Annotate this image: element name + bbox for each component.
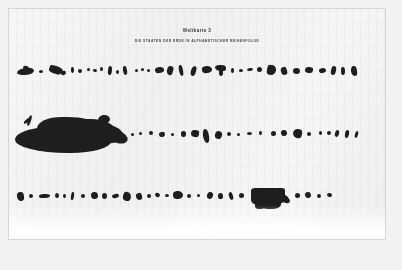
country-shape bbox=[197, 194, 200, 197]
country-shape bbox=[16, 192, 24, 202]
country-shape bbox=[78, 69, 82, 73]
country-shape bbox=[334, 130, 340, 138]
country-shape bbox=[112, 193, 120, 198]
country-shape bbox=[317, 194, 321, 198]
country-shape bbox=[295, 193, 300, 198]
country-shape bbox=[135, 192, 143, 200]
country-shape bbox=[93, 69, 98, 73]
country-shape bbox=[155, 192, 161, 197]
country-shape bbox=[214, 130, 223, 140]
scanned-page-viewport: Weltkarte 3 DIE STAATEN DER ERDE IN ALPH… bbox=[0, 0, 402, 270]
country-shape bbox=[100, 67, 103, 71]
country-shape bbox=[202, 65, 213, 73]
country-shape bbox=[131, 133, 134, 136]
country-shape bbox=[239, 193, 244, 198]
country-shape bbox=[154, 66, 164, 74]
country-shape bbox=[116, 70, 119, 74]
country-shape bbox=[271, 131, 276, 136]
country-shape bbox=[81, 194, 85, 198]
country-shape bbox=[122, 191, 132, 201]
country-shape bbox=[293, 68, 300, 74]
country-silhouette-row-3 bbox=[9, 177, 385, 225]
country-shape bbox=[218, 193, 223, 199]
country-shape bbox=[87, 68, 90, 71]
country-shape bbox=[70, 192, 74, 200]
country-shape bbox=[29, 194, 33, 198]
country-shape bbox=[318, 67, 326, 74]
country-shape bbox=[135, 69, 138, 72]
country-shape bbox=[350, 66, 357, 77]
country-shape bbox=[102, 193, 107, 199]
country-shape bbox=[247, 68, 253, 72]
country-shape bbox=[327, 193, 333, 198]
country-shape bbox=[228, 192, 234, 201]
page-title: Weltkarte 3 bbox=[9, 28, 385, 34]
country-shape bbox=[292, 128, 303, 139]
country-shape bbox=[266, 64, 277, 75]
country-shape bbox=[239, 69, 243, 72]
country-shape bbox=[39, 194, 50, 199]
country-shape bbox=[330, 66, 337, 76]
country-shape bbox=[190, 129, 199, 137]
country-shape bbox=[166, 65, 174, 75]
country-shape bbox=[341, 67, 345, 75]
country-shape bbox=[319, 131, 322, 135]
country-shape bbox=[178, 65, 184, 77]
country-shape bbox=[159, 131, 166, 137]
poster-paper-sheet: Weltkarte 3 DIE STAATEN DER ERDE IN ALPH… bbox=[9, 9, 385, 239]
country-shape bbox=[107, 66, 112, 75]
country-shape bbox=[149, 131, 153, 135]
country-shape bbox=[147, 194, 151, 198]
country-shape bbox=[187, 194, 191, 198]
country-shape bbox=[71, 67, 74, 73]
country-shape bbox=[219, 69, 223, 76]
country-shape bbox=[55, 193, 59, 198]
country-silhouette-row-2 bbox=[9, 105, 385, 171]
country-shape bbox=[344, 130, 349, 139]
country-shape bbox=[257, 67, 262, 72]
country-shape bbox=[280, 66, 288, 75]
country-shape bbox=[237, 133, 240, 136]
country-shape bbox=[259, 131, 262, 135]
country-shape bbox=[190, 66, 197, 77]
country-shape-russia bbox=[26, 115, 32, 126]
country-shape bbox=[173, 190, 184, 199]
country-silhouette-row-1 bbox=[9, 57, 385, 95]
country-shape bbox=[227, 132, 231, 136]
country-shape bbox=[39, 70, 43, 73]
country-shape bbox=[90, 191, 98, 199]
country-shape bbox=[139, 132, 142, 135]
country-shape bbox=[354, 131, 359, 139]
page-subtitle: DIE STAATEN DER ERDE IN ALPHABETISCHER R… bbox=[9, 39, 385, 44]
country-shape bbox=[280, 129, 287, 136]
country-shape bbox=[147, 69, 150, 72]
country-shape bbox=[206, 191, 214, 199]
country-shape bbox=[231, 68, 234, 73]
country-shape-usa bbox=[282, 197, 290, 204]
country-shape bbox=[63, 194, 66, 198]
country-shape bbox=[305, 66, 314, 73]
country-shape bbox=[141, 68, 144, 71]
poster-heading: Weltkarte 3 DIE STAATEN DER ERDE IN ALPH… bbox=[9, 28, 385, 44]
country-shape bbox=[122, 66, 128, 76]
country-shape bbox=[247, 132, 252, 135]
country-shape bbox=[327, 131, 331, 135]
country-shape bbox=[171, 133, 174, 136]
country-shape bbox=[304, 191, 311, 198]
country-shape bbox=[181, 131, 186, 137]
country-shape bbox=[307, 132, 311, 136]
country-shape-usa bbox=[255, 202, 266, 209]
country-shape bbox=[165, 194, 169, 197]
country-shape bbox=[202, 129, 209, 144]
country-shape bbox=[60, 70, 66, 76]
